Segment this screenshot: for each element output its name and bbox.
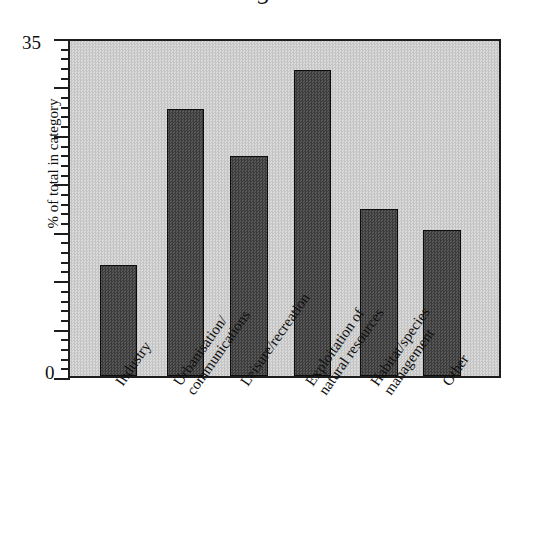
x-axis-category-labels: IndustryUrbanisation/ communicationsLeis… [68, 380, 501, 548]
y-tick-label-min: 0 [45, 363, 55, 382]
y-tick-label-max: 35 [22, 33, 41, 52]
bar [167, 109, 204, 376]
bar-chart-figure: g 35 0 % of total in category IndustryUr… [0, 0, 535, 548]
cropped-caption-text: g [0, 0, 535, 6]
bar [294, 70, 331, 376]
y-axis-title: % of total in category [45, 64, 62, 264]
bar [423, 230, 460, 376]
